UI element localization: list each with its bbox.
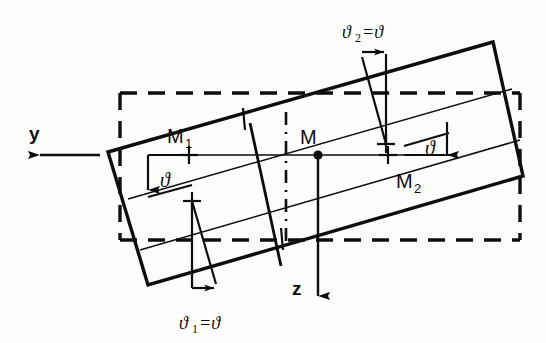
- cross-marker-m2: [379, 146, 397, 164]
- center-point-marker: [313, 150, 322, 159]
- technical-diagram: y z M M 1 M 2 ϑ ϑ ϑ 1 =ϑ ϑ 2 =ϑ: [0, 0, 546, 343]
- svg-text:1: 1: [185, 136, 192, 151]
- theta2-equals-theta-label: ϑ 2 =ϑ: [342, 22, 384, 45]
- svg-text:2: 2: [414, 181, 421, 196]
- theta-left-label: ϑ: [160, 169, 171, 191]
- svg-text:M: M: [167, 125, 184, 147]
- z-axis-label: z: [292, 278, 302, 299]
- svg-text:=ϑ: =ϑ: [362, 22, 384, 42]
- svg-text:M: M: [396, 170, 413, 192]
- diagram-canvas: y z M M 1 M 2 ϑ ϑ ϑ 1 =ϑ ϑ 2 =ϑ: [0, 0, 546, 343]
- point-m2-label: M 2: [396, 170, 421, 196]
- point-m-label: M: [300, 126, 317, 148]
- svg-text:2: 2: [355, 31, 361, 45]
- svg-text:ϑ: ϑ: [179, 313, 189, 333]
- svg-text:ϑ: ϑ: [342, 22, 352, 42]
- theta1-equals-theta-label: ϑ 1 =ϑ: [179, 313, 221, 336]
- theta1-angle-wedge: [192, 201, 216, 288]
- rotated-transverse-line: [250, 123, 281, 266]
- rotated-centerline: [128, 89, 520, 250]
- theta-right-label: ϑ: [425, 137, 436, 159]
- dashed-reference-rectangle: [120, 93, 520, 240]
- svg-text:=ϑ: =ϑ: [199, 313, 221, 333]
- rotated-rectangle: [108, 42, 523, 285]
- svg-text:1: 1: [192, 322, 198, 336]
- y-axis-label: y: [29, 123, 40, 144]
